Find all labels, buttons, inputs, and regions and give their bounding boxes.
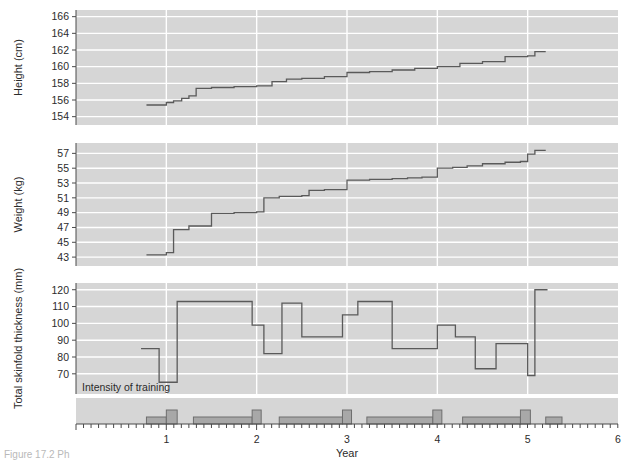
- ytick-label: 160: [51, 60, 69, 72]
- yaxis-title-skinfold: Total skinfold thickness (mm): [12, 268, 24, 409]
- ytick-label: 47: [57, 221, 69, 233]
- ytick-label: 90: [57, 334, 69, 346]
- figure-container: 154156158160162164166Height (cm)43454749…: [0, 0, 630, 461]
- xtick-label: 2: [254, 433, 260, 445]
- ytick-label: 156: [51, 94, 69, 106]
- yaxis-height: 154156158160162164166: [51, 10, 76, 125]
- intensity-bar: [166, 410, 177, 424]
- xtick-label: 1: [163, 433, 169, 445]
- ytick-label: 53: [57, 177, 69, 189]
- xtick-label: 6: [615, 433, 621, 445]
- intensity-bar: [463, 417, 521, 424]
- panel-height: 154156158160162164166Height (cm): [12, 10, 618, 125]
- panel-weight: 4345474951535557Weight (kg): [12, 143, 618, 266]
- ytick-label: 43: [57, 251, 69, 263]
- ytick-label: 120: [51, 284, 69, 296]
- xaxis-title: Year: [336, 447, 359, 459]
- intensity-bar: [433, 410, 442, 424]
- intensity-bar: [146, 417, 166, 424]
- ytick-label: 158: [51, 77, 69, 89]
- intensity-bar: [279, 417, 342, 424]
- yaxis-title-weight: Weight (kg): [12, 176, 24, 232]
- ytick-label: 49: [57, 206, 69, 218]
- intensity-bar: [252, 410, 261, 424]
- ytick-label: 51: [57, 192, 69, 204]
- yaxis-skinfold: 708090100110120: [51, 283, 76, 394]
- intensity-bar: [193, 417, 252, 424]
- intensity-bar: [520, 410, 530, 424]
- ytick-label: 164: [51, 27, 69, 39]
- yaxis-title-height: Height (cm): [12, 39, 24, 96]
- xtick-label: 3: [344, 433, 350, 445]
- ytick-label: 55: [57, 162, 69, 174]
- ytick-label: 100: [51, 317, 69, 329]
- yaxis-weight: 4345474951535557: [57, 143, 76, 266]
- figure-caption: Figure 17.2 Ph: [4, 444, 70, 461]
- multi-panel-growth-chart: 154156158160162164166Height (cm)43454749…: [0, 0, 630, 461]
- ytick-label: 57: [57, 147, 69, 159]
- xaxis: 123456Year: [76, 424, 621, 459]
- intensity-bar: [367, 417, 433, 424]
- xtick-label: 4: [434, 433, 440, 445]
- intensity-annotation: Intensity of training: [82, 381, 170, 393]
- panel-intensity-of-training: [76, 398, 618, 424]
- intensity-bar: [546, 417, 562, 424]
- ytick-label: 80: [57, 351, 69, 363]
- ytick-label: 110: [52, 300, 69, 312]
- intensity-bar: [342, 410, 351, 424]
- ytick-label: 166: [51, 10, 69, 22]
- ytick-label: 45: [57, 236, 69, 248]
- ytick-label: 154: [51, 110, 69, 122]
- ytick-label: 162: [51, 44, 69, 56]
- ytick-label: 70: [57, 368, 69, 380]
- xtick-label: 5: [525, 433, 531, 445]
